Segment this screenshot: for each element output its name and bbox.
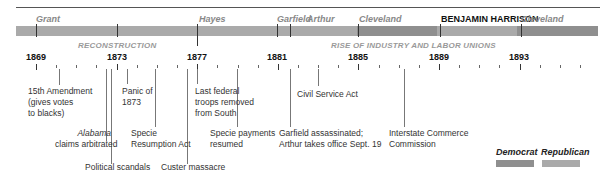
top-rule [16,7,600,8]
leader-line [155,69,156,127]
event-specie-resumption-act: Specie Resumption Act [131,128,191,150]
leader-line [197,69,198,84]
year-label: 1873 [107,52,127,62]
bar-divider [521,24,522,37]
event-troops-removed: Last federal troops removed from South [195,86,254,119]
year-tick [36,64,37,70]
bar-democrat-1893 [517,26,598,36]
year-tick [379,65,380,68]
event-15th-amendment: 15th Amendment (gives votes to blacks) [28,86,92,119]
president-cleveland-2: Cleveland [521,14,564,24]
leader-line [318,69,319,86]
leader-line [59,69,60,85]
event-political-scandals: Political scandals [85,162,150,173]
year-tick [540,65,541,68]
year-tick [338,65,339,68]
bar-divider [36,24,37,37]
year-tick [157,65,158,68]
year-label: 1893 [509,52,529,62]
year-tick [419,65,420,68]
bar-divider [117,24,118,37]
year-label: 1869 [26,52,46,62]
year-label: 1877 [187,52,207,62]
leader-line [127,69,128,84]
year-tick [298,65,299,68]
year-label: 1889 [429,52,449,62]
year-tick [520,64,521,70]
legend-democrat-label: Democrat [496,147,538,157]
year-tick [439,64,440,70]
event-specie-payments: Specie payments resumed [210,128,275,150]
president-hayes: Hayes [199,14,226,24]
event-interstate-commerce: Interstate Commerce Commission [389,128,468,150]
president-cleveland-1: Cleveland [359,14,402,24]
year-label: 1881 [267,52,287,62]
year-tick [238,65,239,68]
era-industry: RISE OF INDUSTRY AND LABOR UNIONS [331,41,496,50]
era-reconstruction: RECONSTRUCTION [78,41,156,50]
president-grant: Grant [36,14,60,24]
legend-republican-swatch [542,160,580,167]
bar-republican-1889-1893 [437,26,517,36]
year-tick [580,65,581,68]
year-tick [318,65,319,68]
year-tick [499,65,500,68]
leader-line [404,69,405,127]
bar-divider [197,24,198,46]
year-tick [278,64,279,70]
event-civil-service-act: Civil Service Act [297,89,358,100]
year-tick [479,65,480,68]
year-tick [217,65,218,68]
year-tick [258,65,259,68]
bar-republican-1869-1885 [16,26,357,36]
year-tick [117,64,118,70]
bar-democrat-1885-1889 [357,26,437,36]
year-tick [76,65,77,68]
year-tick [560,65,561,68]
leader-line [111,69,112,164]
bar-divider [277,24,278,37]
event-alabama-claims: Alabama claims arbitrated [55,128,111,150]
legend-democrat-swatch [496,160,534,167]
event-custer-massacre: Custer massacre [161,162,225,173]
year-tick [358,64,359,70]
leader-line [290,69,291,127]
year-tick [56,65,57,68]
year-tick [96,65,97,68]
bar-divider [440,24,441,37]
legend-republican-label: Republican [541,147,590,157]
bar-divider [358,24,359,37]
year-tick [177,65,178,68]
bar-divider [290,24,291,37]
event-panic-1873: Panic of 1873 [122,86,153,108]
year-tick [137,65,138,68]
president-arthur: Arthur [307,14,335,24]
year-tick [459,65,460,68]
year-tick [399,65,400,68]
year-label: 1885 [348,52,368,62]
event-garfield-assassinated: Garfield assassinated; Arthur takes offi… [279,128,381,150]
president-garfield: Garfield [277,14,311,24]
